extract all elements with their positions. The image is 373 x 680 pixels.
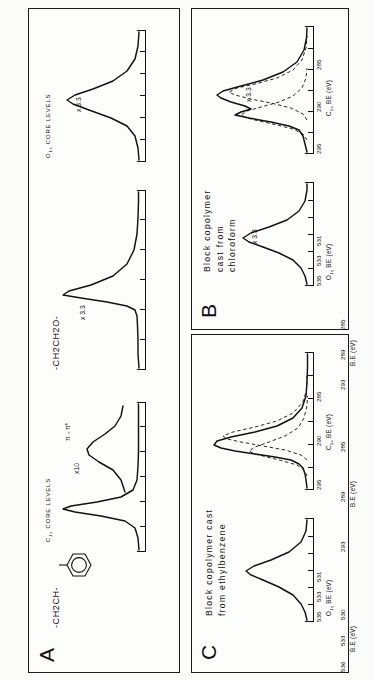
tick-535: 535	[315, 612, 322, 622]
axis-tick	[140, 501, 146, 502]
axis-tick	[308, 444, 314, 445]
tick-531: 531	[315, 572, 322, 582]
panel-a-peo-c1s-spectrum	[55, 190, 141, 370]
axis-cap	[137, 190, 146, 191]
tick-290: 290	[315, 436, 322, 446]
axis-tick	[140, 51, 146, 52]
panel-a-o1s-axis-label: B.E (eV)	[349, 626, 356, 652]
axis-cap	[305, 26, 314, 27]
tick-295: 295	[315, 480, 322, 490]
axis-tick	[140, 279, 146, 280]
axis-cap	[137, 369, 146, 370]
panel-c-caption: Block copolymer cast from ethylbenzene	[203, 509, 228, 616]
tick-285: 285	[315, 60, 322, 70]
panel-c: C Block copolymer cast from ethylbenzene	[193, 338, 345, 668]
axis-cap	[305, 153, 314, 154]
panel-b: B Block copolymer cast from chloroform x…	[193, 14, 345, 326]
panel-a-o1s-core-label: O1s CORE LEVELS	[45, 94, 53, 158]
axis-tick	[140, 139, 146, 140]
axis-cap	[305, 518, 314, 519]
panel-a-c1s-core-label: C1s CORE LEVELS	[45, 478, 53, 542]
axis-tick	[308, 553, 314, 554]
axis-tick	[308, 48, 314, 49]
axis-tick	[308, 200, 314, 201]
tick-285: 285	[315, 392, 322, 402]
axis-tick	[308, 421, 314, 422]
panel-a-peo-c1s-axis-line	[145, 190, 146, 370]
panel-a-c1s-spectrum	[55, 402, 141, 552]
panel-a: A -CH2CH- -CH2CH2O- C1s CORE LEVELS x10 …	[29, 15, 177, 670]
axis-tick	[140, 451, 146, 452]
axis-tick	[140, 526, 146, 527]
panel-a-c1s-axis-line	[145, 402, 146, 552]
axis-cap	[137, 30, 146, 31]
axis-tick	[140, 476, 146, 477]
axis-tick	[308, 398, 314, 399]
phenyl-ring-icon	[65, 552, 93, 578]
panel-c-o1s-axis-label: O1s BE (eV)	[325, 579, 334, 616]
axis-tick	[308, 268, 314, 269]
panel-c-c1s-axis-label: C1s BE (eV)	[325, 414, 334, 450]
tick-533: 533	[315, 592, 322, 602]
panel-a-peo-c1s-axis-label: B.E (eV)	[349, 340, 356, 366]
panel-a-letter: A	[35, 648, 59, 662]
panel-a-o1s-spectrum	[59, 30, 141, 162]
panel-b-caption: Block copolymer cast from chloroform	[201, 189, 239, 272]
panel-c-letter: C	[197, 645, 221, 660]
tick-531: 531	[315, 236, 322, 246]
axis-tick	[308, 467, 314, 468]
axis-tick	[308, 69, 314, 70]
panel-a-o1s-axis-line	[145, 30, 146, 162]
axis-tick	[140, 249, 146, 250]
tick-295: 295	[315, 144, 322, 154]
axis-cap	[305, 352, 314, 353]
axis-tick	[140, 426, 146, 427]
panel-b-o1s-axis-label: O1s BE (eV)	[325, 243, 334, 280]
axis-tick	[140, 219, 146, 220]
axis-tick	[140, 73, 146, 74]
axis-cap	[305, 182, 314, 183]
axis-tick	[308, 132, 314, 133]
axis-cap	[305, 621, 314, 622]
tick-533: 533	[315, 256, 322, 266]
axis-cap	[137, 161, 146, 162]
axis-tick	[308, 111, 314, 112]
axis-tick	[308, 375, 314, 376]
panel-b-letter: B	[197, 304, 221, 318]
axis-tick	[308, 251, 314, 252]
axis-cap	[305, 285, 314, 286]
panel-b-c1s-axis-label: C1s BE (eV)	[325, 80, 334, 116]
panel-a-c1s-axis-label: B.E (eV)	[349, 481, 356, 507]
axis-tick	[308, 536, 314, 537]
axis-tick	[308, 234, 314, 235]
axis-tick	[308, 570, 314, 571]
tick-535: 535	[315, 276, 322, 286]
axis-tick	[140, 339, 146, 340]
panel-c-o1s-spectrum	[241, 518, 309, 622]
figure-canvas: A -CH2CH- -CH2CH2O- C1s CORE LEVELS x10 …	[0, 0, 373, 680]
tick-290: 290	[315, 102, 322, 112]
panel-c-c1s-spectrum	[211, 352, 309, 490]
axis-tick	[140, 117, 146, 118]
structure-styrene-text: -CH2CH-	[51, 587, 61, 628]
axis-tick	[308, 587, 314, 588]
panel-b-c1s-spectrum	[215, 26, 309, 154]
axis-cap	[137, 402, 146, 403]
axis-tick	[308, 217, 314, 218]
axis-tick	[140, 309, 146, 310]
axis-cap	[305, 489, 314, 490]
panel-b-o1s-spectrum	[237, 182, 309, 286]
axis-tick	[308, 604, 314, 605]
axis-cap	[137, 551, 146, 552]
axis-tick	[140, 95, 146, 96]
axis-tick	[308, 90, 314, 91]
